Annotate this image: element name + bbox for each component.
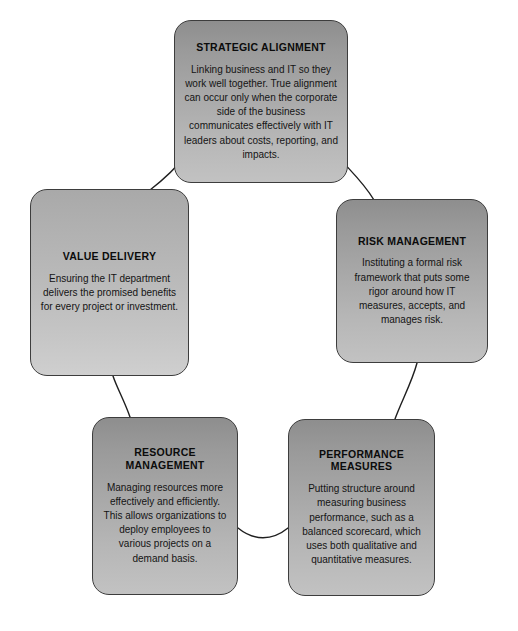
connector-resource-management-value-delivery <box>113 376 130 417</box>
diagram-canvas: STRATEGIC ALIGNMENT Linking business and… <box>0 0 518 631</box>
connector-performance-measures-resource-management <box>238 528 288 538</box>
node-body-strategic-alignment: Linking business and IT so they work wel… <box>184 63 338 162</box>
node-body-resource-management: Managing resources more effectively and … <box>102 481 228 566</box>
node-title-value-delivery: VALUE DELIVERY <box>63 250 156 263</box>
node-title-performance-measures: PERFORMANCE MEASURES <box>298 448 425 474</box>
node-title-risk-management: RISK MANAGEMENT <box>358 235 466 248</box>
node-resource-management[interactable]: RESOURCE MANAGEMENT Managing resources m… <box>92 417 238 595</box>
node-body-performance-measures: Putting structure around measuring busin… <box>298 482 425 567</box>
node-strategic-alignment[interactable]: STRATEGIC ALIGNMENT Linking business and… <box>174 20 348 183</box>
node-risk-management[interactable]: RISK MANAGEMENT Instituting a formal ris… <box>336 199 488 363</box>
node-performance-measures[interactable]: PERFORMANCE MEASURES Putting structure a… <box>288 419 435 596</box>
node-title-resource-management: RESOURCE MANAGEMENT <box>102 446 228 472</box>
node-value-delivery[interactable]: VALUE DELIVERY Ensuring the IT departmen… <box>30 189 189 376</box>
node-title-strategic-alignment: STRATEGIC ALIGNMENT <box>196 41 326 54</box>
node-body-value-delivery: Ensuring the IT department delivers the … <box>40 272 179 315</box>
connector-risk-management-performance-measures <box>395 363 417 419</box>
node-body-risk-management: Instituting a formal risk framework that… <box>346 256 478 327</box>
